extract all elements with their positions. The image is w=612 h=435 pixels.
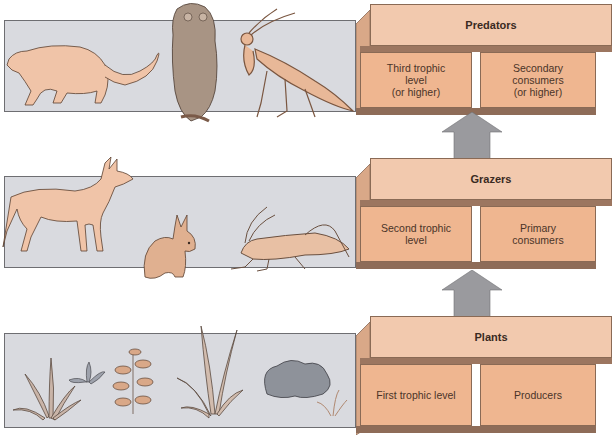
grazers-trophic-level: Second trophic level xyxy=(381,222,451,246)
small-plant-icon xyxy=(69,362,105,384)
predators-trophic-level: Third trophic level (or higher) xyxy=(387,62,445,98)
grass-icon xyxy=(13,358,81,420)
predators-label: Predators xyxy=(465,19,516,31)
plants-panel xyxy=(4,333,356,428)
predators-consumer-type: Secondary consumers (or higher) xyxy=(512,62,563,98)
plants-trophic-level-cell: First trophic level xyxy=(360,364,472,426)
broadleaf-plant-icon xyxy=(265,360,331,397)
plants-layer: Plants First trophic level Producers xyxy=(0,300,612,435)
plants-consumer-type-cell: Producers xyxy=(480,364,596,426)
plants-box-bottom xyxy=(356,426,596,433)
grazers-consumer-type-cell: Primary consumers xyxy=(480,206,596,262)
praying-mantis-icon xyxy=(241,9,353,117)
grazers-label-bar: Grazers xyxy=(370,158,612,200)
predators-trophic-level-cell: Third trophic level (or higher) xyxy=(360,52,472,108)
leafy-shrub-icon xyxy=(113,349,153,414)
grazers-box-bottom xyxy=(356,262,596,269)
grazers-layer: Grazers Second trophic level Primary con… xyxy=(0,150,612,280)
grazers-panel xyxy=(4,176,356,268)
predators-consumer-type-cell: Secondary consumers (or higher) xyxy=(480,52,596,108)
predators-panel xyxy=(4,20,356,112)
grazers-box: Grazers Second trophic level Primary con… xyxy=(356,158,612,270)
predators-box: Predators Third trophic level (or higher… xyxy=(356,4,612,116)
plants-box: Plants First trophic level Producers xyxy=(356,316,612,435)
predators-label-bar: Predators xyxy=(370,4,612,46)
plants-illustration xyxy=(5,334,357,434)
grazers-label: Grazers xyxy=(471,173,512,185)
plants-consumer-type: Producers xyxy=(514,389,562,401)
rabbit-icon xyxy=(144,215,195,278)
tall-grass-icon xyxy=(177,326,243,418)
plants-label-bar: Plants xyxy=(370,316,612,358)
grazers-illustration xyxy=(5,177,357,287)
mountain-lion-icon xyxy=(7,46,159,105)
plants-trophic-level: First trophic level xyxy=(376,389,455,401)
predators-layer: Predators Third trophic level (or higher… xyxy=(0,0,612,135)
grazers-trophic-level-cell: Second trophic level xyxy=(360,206,472,262)
deer-icon xyxy=(3,157,133,251)
plants-label: Plants xyxy=(474,331,507,343)
grazers-consumer-type: Primary consumers xyxy=(512,222,563,246)
owl-icon xyxy=(172,3,217,121)
grasshopper-icon xyxy=(231,207,349,271)
predators-illustration xyxy=(5,21,357,141)
